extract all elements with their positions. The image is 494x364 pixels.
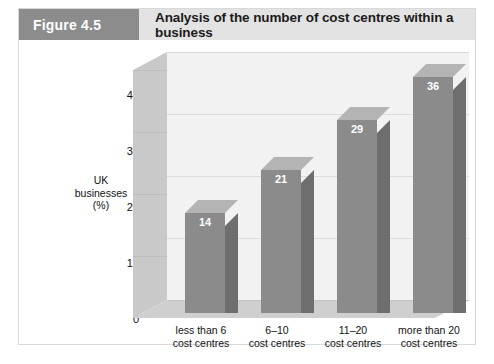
left-wall-tick-30	[133, 132, 167, 133]
bar-value-label-2: 21	[261, 173, 301, 185]
left-wall-tick-40	[133, 70, 167, 71]
bar-top-face-3	[337, 107, 390, 120]
bar-top-face-2	[261, 157, 314, 170]
bar-6-to-10[interactable]: 21	[261, 157, 314, 313]
left-wall-tick-20	[133, 194, 167, 195]
bar-top-face-1	[185, 200, 238, 213]
figure-card: Figure 4.5 Analysis of the number of cos…	[18, 8, 476, 345]
bar-front-face-3	[337, 120, 377, 313]
bar-less-than-6[interactable]: 14	[185, 200, 238, 313]
bar-side-face-2	[301, 170, 314, 313]
figure-title: Analysis of the number of cost centres w…	[139, 9, 475, 40]
bar-side-face-1	[225, 213, 238, 313]
plot-area: 14 21 29	[133, 52, 469, 318]
chart-canvas: UK businesses (%) 40 30 20 10 0	[19, 40, 475, 344]
bar-11-to-20[interactable]: 29	[337, 107, 390, 313]
bar-front-face-1	[185, 213, 225, 313]
bar-more-than-20[interactable]: 36	[413, 64, 466, 313]
bar-value-label-1: 14	[185, 216, 225, 228]
x-category-label-4-line-2: cost centres	[381, 337, 477, 350]
bar-value-label-4: 36	[413, 80, 453, 92]
bar-front-face-2	[261, 170, 301, 313]
bar-value-label-3: 29	[337, 123, 377, 135]
bar-front-face-4	[413, 77, 453, 313]
bar-side-face-4	[453, 77, 466, 313]
bar-side-face-3	[377, 120, 390, 313]
figure-header: Figure 4.5 Analysis of the number of cos…	[19, 9, 475, 40]
figure-screenshot: Figure 4.5 Analysis of the number of cos…	[0, 0, 494, 364]
x-category-label-4: more than 20 cost centres	[381, 324, 477, 349]
y-axis-title-line-1: UK	[63, 174, 139, 187]
gridline-40	[167, 52, 469, 53]
left-wall-tick-10	[133, 256, 167, 257]
figure-number-tag: Figure 4.5	[19, 9, 139, 40]
plot-left-wall	[133, 52, 167, 318]
bar-top-face-4	[413, 64, 466, 77]
x-category-label-4-line-1: more than 20	[381, 324, 477, 337]
y-axis-title-line-2: businesses	[63, 187, 139, 200]
